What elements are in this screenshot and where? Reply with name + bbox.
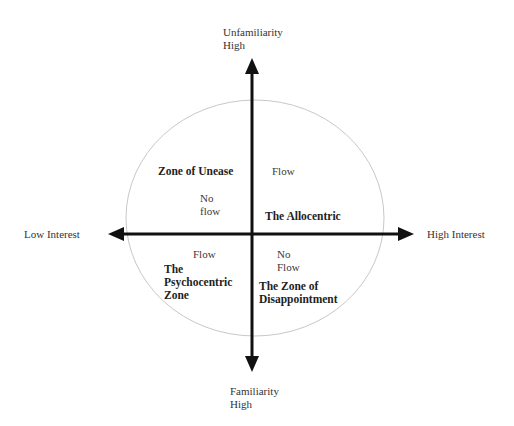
axis-label-bottom-line2: High xyxy=(230,398,279,411)
flow-label-upper-right: Flow xyxy=(272,165,295,178)
flow-label-lower-right: No Flow xyxy=(277,248,300,274)
flow-zone-diagram: Unfamiliarity High Familiarity High Low … xyxy=(0,0,514,426)
flow-label-upper-left-line2: flow xyxy=(200,205,220,218)
flow-label-upper-left: No flow xyxy=(200,192,220,218)
axis-label-bottom-line1: Familiarity xyxy=(230,385,279,398)
axis-label-top: Unfamiliarity High xyxy=(223,26,283,52)
diagram-canvas xyxy=(0,0,514,426)
zone-disappointment-line1: The Zone of xyxy=(259,280,338,293)
axis-label-left: Low Interest xyxy=(24,228,80,241)
flow-label-lower-left: Flow xyxy=(193,248,216,261)
zone-disappointment-line2: Disappointment xyxy=(259,293,338,306)
zone-psychocentric-label: The Psychocentric Zone xyxy=(164,263,232,302)
flow-label-upper-left-line1: No xyxy=(200,192,220,205)
flow-label-lower-right-line1: No xyxy=(277,248,300,261)
arrow-left-icon xyxy=(108,227,124,241)
zone-disappointment-label: The Zone of Disappointment xyxy=(259,280,338,306)
arrow-down-icon xyxy=(245,356,259,372)
flow-label-lower-right-line2: Flow xyxy=(277,261,300,274)
axis-label-bottom: Familiarity High xyxy=(230,385,279,411)
zone-psychocentric-line2: Psychocentric xyxy=(164,276,232,289)
axis-label-top-line1: Unfamiliarity xyxy=(223,26,283,39)
zone-allocentric-label: The Allocentric xyxy=(265,210,341,223)
axis-label-top-line2: High xyxy=(223,39,283,52)
arrow-up-icon xyxy=(245,58,259,74)
arrow-right-icon xyxy=(398,227,414,241)
zone-psychocentric-line1: The xyxy=(164,263,232,276)
axis-label-right: High Interest xyxy=(427,228,485,241)
zone-unease-label: Zone of Unease xyxy=(158,165,233,178)
zone-psychocentric-line3: Zone xyxy=(164,289,232,302)
